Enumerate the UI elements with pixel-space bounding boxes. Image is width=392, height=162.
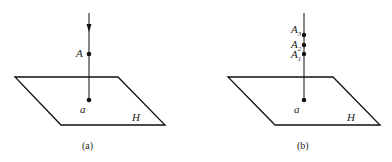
point-a3 <box>302 33 306 37</box>
label-A: A <box>75 47 83 59</box>
label-H: H <box>131 111 141 123</box>
projection-diagram: A a H (a) A3 A2 A1 a H (b) <box>0 0 392 162</box>
figure-a: A a H (a) <box>15 13 165 152</box>
point-a1 <box>302 52 306 56</box>
point-a2 <box>302 43 306 47</box>
label-A3: A3 <box>290 23 302 38</box>
label-a: a <box>80 103 86 115</box>
caption-b: (b) <box>297 140 309 152</box>
point-a-projection <box>302 98 307 103</box>
label-H: H <box>346 111 356 123</box>
arrow-down-icon <box>87 24 92 32</box>
point-a-projection <box>87 98 92 103</box>
label-a: a <box>294 103 300 115</box>
figure-b: A3 A2 A1 a H (b) <box>228 13 380 152</box>
point-a-upper <box>87 52 92 57</box>
caption-a: (a) <box>82 140 93 152</box>
